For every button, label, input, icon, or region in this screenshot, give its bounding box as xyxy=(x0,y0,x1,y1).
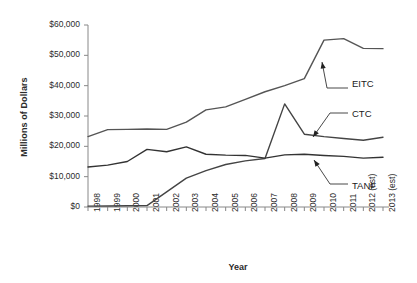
arrow-head-icon-eitc xyxy=(321,62,326,69)
line-chart: Millions of Dollars Year $60,000$50,000$… xyxy=(0,0,417,283)
annotation-leaders xyxy=(313,62,348,184)
arrow-head-icon-tanf xyxy=(314,160,320,167)
plot-area xyxy=(0,0,417,283)
leader-line-eitc xyxy=(322,62,348,88)
data-series xyxy=(88,39,383,206)
axes xyxy=(84,25,389,211)
series-line-tanf xyxy=(88,147,383,167)
